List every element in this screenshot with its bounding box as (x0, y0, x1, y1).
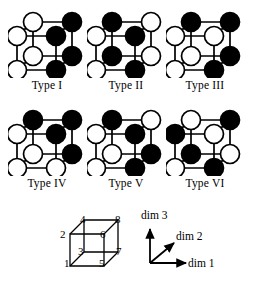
index-number-7: 7 (116, 246, 122, 257)
cube-label-type-6: Type VI (166, 176, 244, 190)
cube-panel-type-5: Type V (87, 102, 165, 200)
vertex-v8 (142, 13, 161, 32)
cube-label-type-1: Type I (8, 78, 86, 92)
vertex-v7 (221, 145, 240, 164)
vertex-v7 (221, 47, 240, 66)
figure-root: Type I (0, 0, 253, 286)
cube-grid: Type I (0, 0, 253, 200)
vertex-v8 (221, 13, 240, 32)
cube-panel-type-2: Type II (87, 4, 165, 102)
vertex-v1 (166, 61, 185, 79)
vertex-v6 (205, 125, 224, 144)
vertex-v2 (8, 27, 27, 46)
cube-label-type-5: Type V (87, 176, 165, 190)
vertex-v7 (142, 47, 161, 66)
vertex-v5 (126, 61, 145, 79)
cube-diagram-type-6 (166, 102, 244, 176)
cube-diagram-type-2 (87, 4, 165, 78)
vertex-v3 (103, 47, 122, 66)
cube-label-type-4: Type IV (8, 176, 86, 190)
axes-legend: dim 1 dim 2 dim 3 (136, 206, 251, 282)
vertex-v6 (47, 125, 66, 144)
vertex-v7 (63, 47, 82, 66)
vertex-v3 (103, 145, 122, 164)
index-number-1: 1 (64, 258, 70, 269)
vertex-v1 (8, 159, 27, 177)
vertex-v6 (205, 27, 224, 46)
cube-diagram-type-4 (8, 102, 86, 176)
vertex-v1 (8, 61, 27, 79)
vertex-v4 (182, 13, 201, 32)
index-number-3: 3 (78, 246, 84, 257)
vertex-v3 (182, 145, 201, 164)
cube-diagram-type-1 (8, 4, 86, 78)
index-number-4: 4 (80, 214, 86, 225)
vertex-v5 (126, 159, 145, 177)
index-number-8: 8 (115, 214, 121, 225)
vertex-v8 (221, 111, 240, 130)
vertex-v4 (103, 13, 122, 32)
index-number-5: 5 (99, 258, 105, 269)
vertex-v1 (87, 61, 106, 79)
cube-label-type-2: Type II (87, 78, 165, 92)
vertex-v3 (24, 47, 43, 66)
vertex-v5 (47, 159, 66, 177)
vertex-v1 (87, 159, 106, 177)
vertex-v2 (166, 125, 185, 144)
vertex-v5 (205, 61, 224, 79)
vertex-v8 (63, 111, 82, 130)
vertex-v4 (24, 13, 43, 32)
index-number-2: 2 (60, 229, 66, 240)
vertex-v7 (63, 145, 82, 164)
vertex-v5 (205, 159, 224, 177)
cube-diagram-type-3 (166, 4, 244, 78)
cube-panel-type-1: Type I (8, 4, 86, 102)
vertex-v4 (103, 111, 122, 130)
vertex-v6 (47, 27, 66, 46)
vertex-v8 (63, 13, 82, 32)
vertex-v2 (87, 125, 106, 144)
vertex-v1 (166, 159, 185, 177)
vertex-v3 (24, 145, 43, 164)
cube-label-type-3: Type III (166, 78, 244, 92)
axis-label-dim-1: dim 1 (188, 257, 215, 269)
cube-diagram-type-5 (87, 102, 165, 176)
vertex-v2 (8, 125, 27, 144)
axis-label-dim-3: dim 3 (141, 209, 168, 221)
vertex-v6 (126, 125, 145, 144)
vertex-v8 (142, 111, 161, 130)
vertex-v6 (126, 27, 145, 46)
vertex-v3 (182, 47, 201, 66)
vertex-v7 (142, 145, 161, 164)
vertex-v5 (47, 61, 66, 79)
cube-panel-type-4: Type IV (8, 102, 86, 200)
vertex-v2 (87, 27, 106, 46)
axis-label-dim-2: dim 2 (176, 230, 203, 242)
index-cube: 1 2 3 4 5 6 7 8 (58, 206, 134, 280)
vertex-v4 (24, 111, 43, 130)
cube-panel-type-6: Type VI (166, 102, 244, 200)
vertex-v4 (182, 111, 201, 130)
index-number-6: 6 (100, 229, 106, 240)
cube-panel-type-3: Type III (166, 4, 244, 102)
vertex-v2 (166, 27, 185, 46)
